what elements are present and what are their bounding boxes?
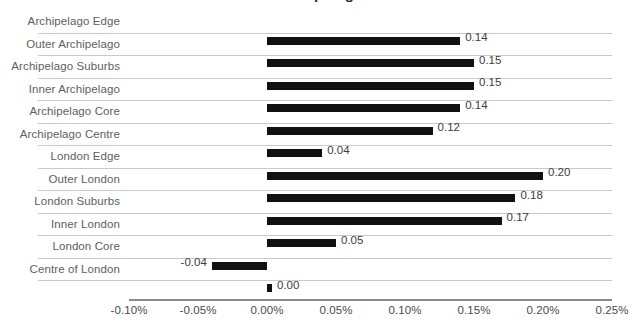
chart-row: Archipelago Edge0.14 [0, 14, 638, 37]
category-label: Outer Archipelago [0, 38, 120, 50]
category-label: Centre of London [0, 263, 120, 275]
category-label: Outer London [0, 173, 120, 185]
category-label: Archipelago Centre [0, 128, 120, 140]
chart-row: Outer London0.18 [0, 172, 638, 195]
gridline [38, 145, 612, 146]
gridline [38, 78, 612, 79]
category-label: Inner London [0, 218, 120, 230]
x-tick-label: 0.05% [319, 304, 352, 316]
chart-row: Centre of London0.00 [0, 262, 638, 285]
chart-row: Archipelago Core0.12 [0, 104, 638, 127]
x-axis-line [129, 299, 612, 301]
x-tick-label: -0.05% [179, 304, 216, 316]
gridline [38, 123, 612, 124]
chart-row: London Suburbs0.17 [0, 194, 638, 217]
gridline [38, 100, 612, 101]
category-label: Archipelago Edge [0, 15, 120, 27]
gridline [38, 280, 612, 281]
x-tick-label: 0.25% [595, 304, 628, 316]
gridline [38, 55, 612, 56]
chart-row: Outer Archipelago0.15 [0, 37, 638, 60]
category-label: London Edge [0, 150, 120, 162]
gridline [38, 235, 612, 236]
plot-area: Archipelago Edge0.14Outer Archipelago0.1… [0, 0, 638, 328]
gridline [38, 258, 612, 259]
x-tick-label: -0.10% [110, 304, 147, 316]
bar[interactable] [267, 284, 272, 292]
category-label: London Core [0, 240, 120, 252]
gridline [38, 33, 612, 34]
gridline [38, 168, 612, 169]
chart-row: London Edge0.20 [0, 149, 638, 172]
bar-chart: Archipelago Archipelago Edge0.14Outer Ar… [0, 0, 638, 328]
x-tick-label: 0.10% [388, 304, 421, 316]
category-label: Archipelago Core [0, 105, 120, 117]
x-tick-label: 0.20% [526, 304, 559, 316]
category-label: Archipelago Suburbs [0, 60, 120, 72]
chart-row: Archipelago Suburbs0.15 [0, 59, 638, 82]
category-label: Inner Archipelago [0, 83, 120, 95]
chart-row: Inner London0.05 [0, 217, 638, 240]
chart-row: Archipelago Centre0.04 [0, 127, 638, 150]
x-tick-label: 0.15% [457, 304, 490, 316]
chart-row: Inner Archipelago0.14 [0, 82, 638, 105]
x-tick-label: 0.00% [250, 304, 283, 316]
category-label: London Suburbs [0, 195, 120, 207]
chart-row: London Core-0.04 [0, 239, 638, 262]
bar-value-label: 0.00 [277, 279, 299, 291]
